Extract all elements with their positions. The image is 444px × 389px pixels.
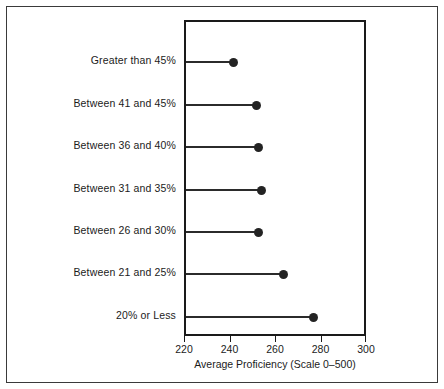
x-tick-label: 300 — [357, 343, 375, 355]
category-label: 20% or Less — [116, 309, 176, 321]
data-point-marker[interactable] — [279, 270, 288, 279]
data-point-marker[interactable] — [229, 58, 238, 67]
category-axis-labels: Greater than 45%Between 41 and 45%Betwee… — [0, 20, 184, 336]
data-point-marker[interactable] — [254, 143, 263, 152]
x-tick-label: 240 — [221, 343, 239, 355]
x-tick-mark — [230, 336, 231, 342]
stem-line — [186, 231, 259, 233]
x-tick-label: 280 — [312, 343, 330, 355]
x-tick-label: 220 — [175, 343, 193, 355]
category-label: Greater than 45% — [91, 54, 176, 66]
stem-line — [186, 146, 259, 148]
x-tick-mark — [321, 336, 322, 342]
data-point-marker[interactable] — [254, 228, 263, 237]
category-label: Between 21 and 25% — [73, 266, 176, 278]
category-label: Between 31 and 35% — [73, 182, 176, 194]
category-label: Between 36 and 40% — [73, 139, 176, 151]
stem-line — [186, 189, 261, 191]
x-tick-mark — [365, 336, 366, 342]
x-axis-title: Average Proficiency (Scale 0–500) — [184, 358, 366, 370]
stem-line — [186, 273, 284, 275]
data-point-marker[interactable] — [252, 101, 261, 110]
stem-line — [186, 104, 257, 106]
stem-line — [186, 316, 313, 318]
chart-figure: Greater than 45%Between 41 and 45%Betwee… — [0, 0, 444, 389]
category-label: Between 26 and 30% — [73, 224, 176, 236]
x-tick-mark — [275, 336, 276, 342]
data-point-marker[interactable] — [257, 186, 266, 195]
x-tick-mark — [184, 336, 185, 342]
data-point-marker[interactable] — [309, 313, 318, 322]
plot-area — [184, 20, 366, 336]
category-label: Between 41 and 45% — [73, 97, 176, 109]
stem-line — [186, 61, 234, 63]
x-tick-label: 260 — [266, 343, 284, 355]
